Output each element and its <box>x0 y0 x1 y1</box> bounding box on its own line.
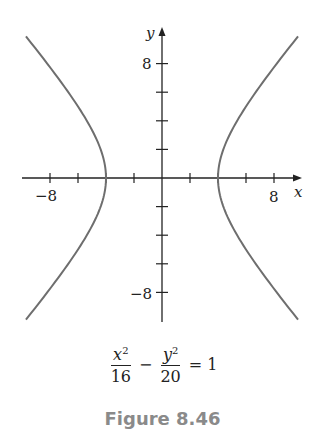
eq-equals: = <box>189 355 202 374</box>
axes <box>22 27 302 322</box>
eq-denominator-16: 16 <box>111 366 131 387</box>
y-tick-label-neg8: −8 <box>130 285 152 303</box>
figure-caption: Figure 8.46 <box>0 408 325 429</box>
eq-y: y <box>163 345 172 364</box>
y-axis-label: y <box>145 24 155 42</box>
eq-y-exponent: 2 <box>172 345 178 356</box>
eq-minus: − <box>139 355 152 374</box>
hyperbola-plot: y x −8 8 8 −8 <box>0 0 325 340</box>
eq-rhs: 1 <box>207 355 217 374</box>
fraction-x-squared-over-16: x2 16 <box>111 341 131 387</box>
fraction-y-squared-over-20: y2 20 <box>160 341 180 387</box>
x-tick-label-neg8: −8 <box>35 187 57 205</box>
x-tick-label-8: 8 <box>269 188 279 206</box>
x-axis-label: x <box>294 183 303 201</box>
x-axis-arrow-icon <box>293 175 302 182</box>
eq-denominator-20: 20 <box>160 366 180 387</box>
y-tick-label-8: 8 <box>142 55 152 73</box>
hyperbola-equation: x2 16 − y2 20 = 1 <box>0 341 325 387</box>
eq-x: x <box>113 345 122 364</box>
y-axis-arrow-icon <box>159 27 166 36</box>
eq-x-exponent: 2 <box>122 345 128 356</box>
